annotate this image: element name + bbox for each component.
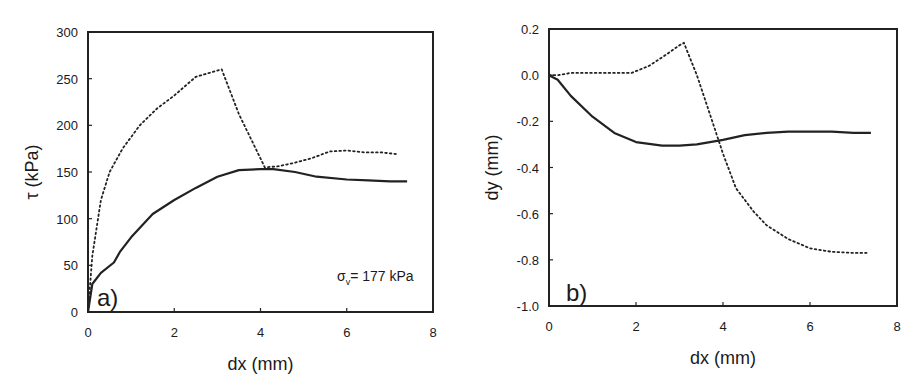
y-tick-label: 200: [56, 118, 78, 133]
x-tick-label: 2: [632, 319, 639, 334]
y-tick-label: -0.6: [517, 207, 539, 222]
y-tick-label: -0.4: [517, 161, 539, 176]
y-tick-label: 250: [56, 72, 78, 87]
y-axis-label: τ (kPa): [22, 144, 42, 199]
y-axis-label: dy (mm): [482, 135, 502, 201]
y-tick-label: -0.8: [517, 253, 539, 268]
chart-panel-b: 024680.20.0-0.2-0.4-0.6-0.8-1.0dx (mm)dy…: [482, 22, 901, 368]
y-tick-label: 50: [64, 258, 78, 273]
x-axis-label: dx (mm): [228, 354, 294, 374]
y-tick-label: 0: [71, 305, 78, 320]
normal-stress-annotation: σv= 177 kPa: [337, 268, 414, 287]
series-solid-line: [549, 75, 871, 145]
x-tick-label: 4: [257, 325, 264, 340]
y-tick-label: 0.2: [521, 22, 539, 37]
y-tick-label: 300: [56, 25, 78, 40]
series-solid-line: [88, 169, 407, 312]
plot-frame: [549, 29, 897, 306]
figure-canvas: 02468050100150200250300dx (mm)τ (kPa)a)σ…: [0, 0, 921, 389]
y-tick-label: -1.0: [517, 299, 539, 314]
series-dotted-line: [549, 43, 867, 253]
x-tick-label: 0: [84, 325, 91, 340]
chart-panel-a: 02468050100150200250300dx (mm)τ (kPa)a)σ…: [22, 25, 437, 374]
panel-label: b): [566, 279, 587, 306]
y-tick-label: 150: [56, 165, 78, 180]
panel-label: a): [97, 284, 118, 311]
x-axis-label: dx (mm): [690, 348, 756, 368]
x-tick-label: 4: [719, 319, 726, 334]
y-tick-label: -0.2: [517, 114, 539, 129]
x-tick-label: 6: [806, 319, 813, 334]
x-tick-label: 6: [343, 325, 350, 340]
x-tick-label: 8: [893, 319, 900, 334]
x-tick-label: 2: [171, 325, 178, 340]
y-tick-label: 0.0: [521, 68, 539, 83]
x-tick-label: 8: [429, 325, 436, 340]
x-tick-label: 0: [545, 319, 552, 334]
y-tick-label: 100: [56, 212, 78, 227]
